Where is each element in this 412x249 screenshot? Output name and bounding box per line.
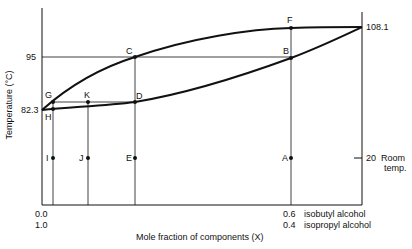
point-label-b: B [283, 46, 289, 56]
point-label-h: H [45, 112, 52, 122]
tick-20: 20 [366, 153, 376, 163]
temp-label: temp. [384, 163, 407, 173]
point-label-j: J [79, 153, 84, 163]
point-label-i: I [46, 153, 49, 163]
point-label-a: A [282, 153, 288, 163]
point-label-e: E [126, 153, 132, 163]
isobutyl-label: isobutyl alcohol [304, 209, 366, 219]
x-tick-0-4: 0.4 [283, 220, 296, 230]
x-tick-0-6: 0.6 [283, 209, 296, 219]
tick-82-3: 82.3 [21, 105, 39, 115]
point-label-c: C [126, 46, 133, 56]
tick-95: 95 [26, 52, 36, 62]
room-label: Room [381, 153, 405, 163]
x-axis-label: Mole fraction of components (X) [136, 232, 264, 242]
point-label-g: G [45, 90, 52, 100]
isopropyl-label: isopropyl alcohol [304, 220, 371, 230]
point-label-d: D [136, 91, 143, 101]
y-axis-label: Temperature (°C) [4, 60, 14, 150]
point-label-f: F [287, 15, 293, 25]
point-label-k: K [84, 90, 90, 100]
x-tick-1-0: 1.0 [35, 220, 48, 230]
tick-108-1: 108.1 [366, 22, 389, 32]
x-tick-0-0: 0.0 [35, 209, 48, 219]
